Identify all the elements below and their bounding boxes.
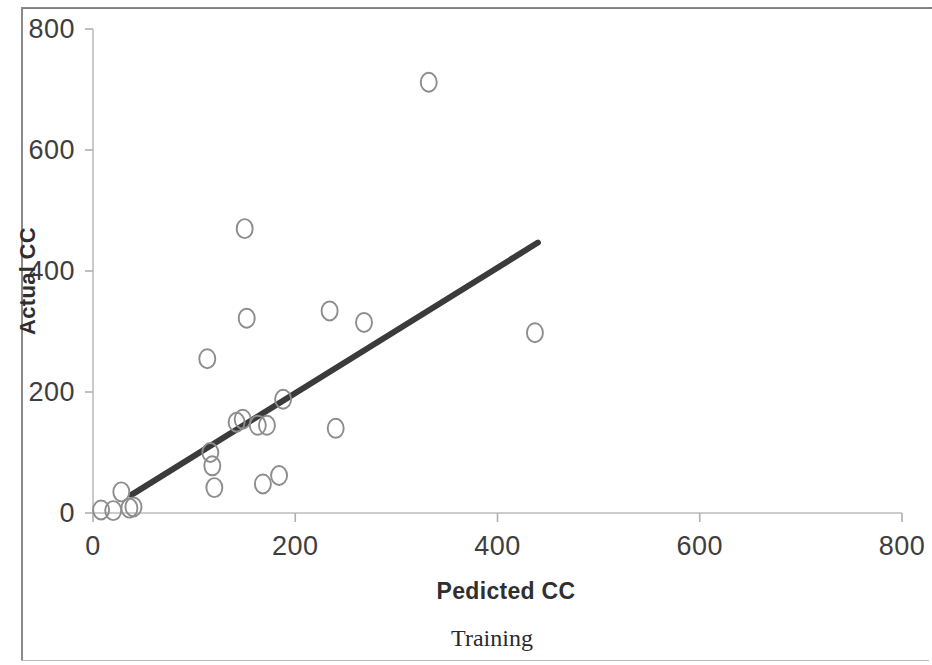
data-point	[237, 219, 253, 238]
data-point-group	[93, 73, 543, 520]
y-axis-title: Actual CC	[15, 201, 41, 361]
data-point	[204, 456, 220, 475]
x-tick-label: 400	[474, 531, 521, 562]
x-axis-ticks	[93, 513, 902, 522]
data-point	[328, 419, 344, 438]
y-tick-label: 800	[0, 14, 75, 45]
data-point	[271, 466, 287, 485]
figure-caption: Training	[0, 625, 932, 652]
data-point	[527, 323, 543, 342]
y-tick-label: 200	[0, 377, 75, 408]
y-tick-label: 600	[0, 135, 75, 166]
scatter-chart: 0200400600800 0200400600800 Actual CC Pe…	[0, 0, 932, 665]
data-point	[206, 478, 222, 497]
data-point	[255, 474, 271, 493]
x-tick-label: 600	[676, 531, 723, 562]
plot-canvas	[0, 0, 932, 665]
data-point	[322, 301, 338, 320]
x-axis-title: Pedicted CC	[0, 578, 932, 605]
data-point	[259, 416, 275, 435]
y-tick-label: 0	[0, 498, 75, 529]
x-tick-label: 0	[85, 531, 101, 562]
figure-page: 0200400600800 0200400600800 Actual CC Pe…	[0, 0, 932, 665]
data-point	[356, 313, 372, 332]
y-axis-ticks	[85, 29, 93, 513]
data-point	[421, 73, 437, 92]
trend-line	[131, 243, 538, 495]
x-tick-label: 800	[879, 531, 926, 562]
x-tick-label: 200	[272, 531, 319, 562]
data-point	[199, 349, 215, 368]
data-point	[105, 501, 121, 520]
data-point	[239, 309, 255, 328]
